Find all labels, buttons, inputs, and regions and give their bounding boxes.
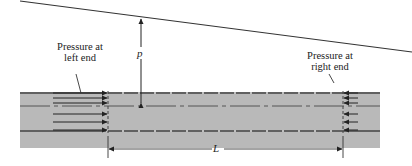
- length-symbol: L: [213, 142, 219, 154]
- left-pressure-label: Pressure at left end: [40, 41, 120, 63]
- left-label-leader: [76, 74, 81, 93]
- pipe-body: [20, 92, 380, 148]
- diagram-canvas: Pressure at left end Pressure at right e…: [0, 0, 412, 166]
- pressure-symbol: p: [136, 47, 144, 59]
- right-pressure-label: Pressure at right end: [290, 50, 370, 72]
- right-label-leader: [329, 74, 334, 83]
